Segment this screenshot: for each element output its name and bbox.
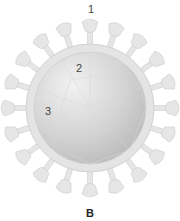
virus-diagram <box>0 0 180 221</box>
label-2: 2 <box>76 63 82 74</box>
figure-caption: B <box>86 208 94 219</box>
label-3: 3 <box>45 106 51 117</box>
label-1: 1 <box>88 4 94 15</box>
